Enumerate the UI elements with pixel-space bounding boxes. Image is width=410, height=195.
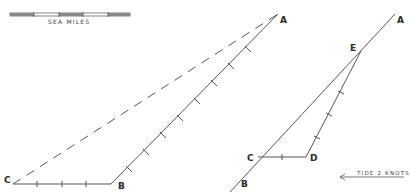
left-point-b: B: [118, 181, 125, 191]
scale-bar-label: SEA MILES: [48, 18, 90, 25]
right-point-d: D: [310, 153, 317, 163]
line-ca-dashed: [13, 14, 278, 184]
line-ba-right: [230, 14, 395, 192]
left-point-a: A: [280, 15, 287, 25]
tide-label: TIDE 2 KNOTS: [356, 170, 410, 176]
left-point-c: C: [4, 175, 11, 185]
line-de: [306, 51, 361, 157]
right-point-e: E: [350, 43, 356, 53]
right-figure: [230, 14, 395, 192]
left-figure: [13, 14, 278, 187]
tide-indicator: TIDE 2 KNOTS: [340, 170, 410, 180]
scale-bar: SEA MILES: [10, 12, 130, 25]
diagram-canvas: SEA MILES C B A A E C D B: [0, 0, 410, 195]
right-point-b: B: [241, 179, 248, 189]
right-point-c: C: [247, 153, 254, 163]
right-point-a: A: [397, 15, 404, 25]
